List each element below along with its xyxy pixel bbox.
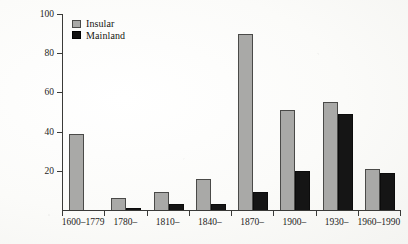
bar-mainland-4	[253, 192, 268, 210]
x-tick-label: 1840–	[198, 217, 222, 227]
bar-mainland-6	[338, 114, 353, 210]
bar-mainland-3	[211, 204, 226, 210]
bar-insular-3	[196, 179, 211, 210]
x-tick-mark	[358, 211, 359, 216]
y-tick-label: 60	[24, 87, 54, 97]
y-tick-label: 100	[24, 9, 54, 19]
plot-area	[62, 14, 400, 210]
bar-insular-0	[69, 134, 84, 210]
bar-insular-6	[323, 102, 338, 210]
y-tick-label: 80	[24, 48, 54, 58]
x-tick-mark	[231, 211, 232, 216]
x-tick-label: 1960–1990	[358, 217, 401, 227]
y-tick-label: 20	[24, 166, 54, 176]
x-tick-mark	[273, 211, 274, 216]
bar-insular-5	[280, 110, 295, 210]
x-tick-mark	[189, 211, 190, 216]
bar-insular-2	[154, 192, 169, 210]
x-tick-label: 1900–	[283, 217, 307, 227]
bar-mainland-1	[126, 208, 141, 210]
bar-insular-7	[365, 169, 380, 210]
x-tick-label: 1930–	[325, 217, 349, 227]
x-tick-label: 1600–1779	[62, 217, 105, 227]
bar-insular-4	[238, 34, 253, 210]
x-tick-label: 1810–	[156, 217, 180, 227]
y-tick-label: 40	[24, 127, 54, 137]
x-tick-mark	[147, 211, 148, 216]
x-tick-mark	[316, 211, 317, 216]
bar-mainland-7	[380, 173, 395, 210]
extinctions-bar-chart-figure: No. of extinctions 20406080100 Insular M…	[0, 0, 408, 244]
x-tick-label: 1870–	[240, 217, 264, 227]
x-tick-mark	[104, 211, 105, 216]
x-tick-label: 1780–	[114, 217, 138, 227]
bar-mainland-2	[169, 204, 184, 210]
x-tick-mark	[400, 211, 401, 216]
bar-insular-1	[111, 198, 126, 210]
bar-mainland-5	[295, 171, 310, 210]
x-tick-mark-origin	[62, 211, 63, 216]
